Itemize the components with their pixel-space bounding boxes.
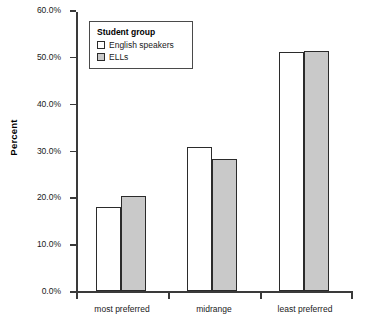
x-tick-2 bbox=[260, 293, 262, 299]
x-tick-0 bbox=[76, 293, 78, 299]
bar-ells-midrange bbox=[212, 159, 237, 291]
gray-square-swatch-icon bbox=[97, 53, 105, 61]
bar-ells-most-preferred bbox=[121, 196, 146, 292]
legend: Student group English speakers ELLs bbox=[89, 21, 193, 69]
legend-label-english-speakers: English speakers bbox=[109, 40, 174, 50]
y-tick-label-3: 30.0% bbox=[37, 146, 61, 156]
y-tick-label-5: 50.0% bbox=[37, 52, 61, 62]
y-tick-label-2: 20.0% bbox=[37, 192, 61, 202]
x-category-label-0: most preferred bbox=[94, 304, 149, 314]
x-category-label-1: midrange bbox=[196, 304, 231, 314]
legend-item-ells: ELLs bbox=[97, 52, 185, 62]
legend-item-english-speakers: English speakers bbox=[97, 40, 185, 50]
y-axis-title: Percent bbox=[8, 103, 19, 173]
y-tick-6: 60.0% bbox=[70, 10, 76, 12]
y-tick-label-1: 10.0% bbox=[37, 239, 61, 249]
y-tick-5: 50.0% bbox=[70, 57, 76, 59]
x-category-label-2: least preferred bbox=[278, 304, 333, 314]
y-tick-3: 30.0% bbox=[70, 151, 76, 153]
bar-chart: Percent 0.0% 10.0% 20.0% 30.0% 40.0% 50.… bbox=[0, 0, 370, 322]
y-tick-label-6: 60.0% bbox=[37, 5, 61, 15]
y-tick-4: 40.0% bbox=[70, 104, 76, 106]
x-axis-line bbox=[76, 291, 353, 293]
white-square-swatch-icon bbox=[97, 41, 105, 49]
y-tick-2: 20.0% bbox=[70, 197, 76, 199]
y-tick-label-0: 0.0% bbox=[42, 286, 61, 296]
bar-english-speakers-most-preferred bbox=[96, 207, 121, 291]
y-tick-label-4: 40.0% bbox=[37, 99, 61, 109]
legend-title: Student group bbox=[97, 27, 185, 37]
y-axis-line bbox=[76, 12, 78, 293]
x-tick-1 bbox=[168, 293, 170, 299]
bar-english-speakers-least-preferred bbox=[279, 52, 304, 291]
legend-label-ells: ELLs bbox=[109, 52, 128, 62]
bar-ells-least-preferred bbox=[304, 51, 329, 291]
x-tick-3 bbox=[351, 293, 353, 299]
bar-english-speakers-midrange bbox=[187, 147, 212, 291]
y-tick-1: 10.0% bbox=[70, 244, 76, 246]
